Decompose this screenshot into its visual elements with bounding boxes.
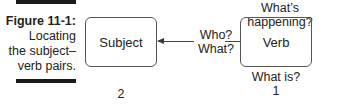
subject-box: Subject [85,17,157,67]
caption-line-3: verb pairs. [0,59,76,74]
connector-line-from-verb [225,41,240,42]
verb-label: Verb [263,35,290,50]
figure-label: Figure 11-1: [0,14,76,29]
what-text: What? [196,42,236,56]
caption-top-rule [16,0,76,4]
caption-line-2: the subject– [0,44,76,59]
who-what-question: Who? What? [196,28,236,56]
step-number-verb: 1 [266,84,286,98]
who-text: Who? [196,28,236,42]
caption-line-1: Locating [0,29,76,44]
arrow-line-to-subject [158,41,194,42]
figure-caption: Figure 11-1: Locating the subject– verb … [0,14,76,74]
verb-box: Verb [240,17,312,67]
what-is-question: What is? [246,70,306,84]
subject-label: Subject [99,35,142,50]
step-number-subject: 2 [111,87,131,101]
caption-bottom-rule [16,79,76,83]
